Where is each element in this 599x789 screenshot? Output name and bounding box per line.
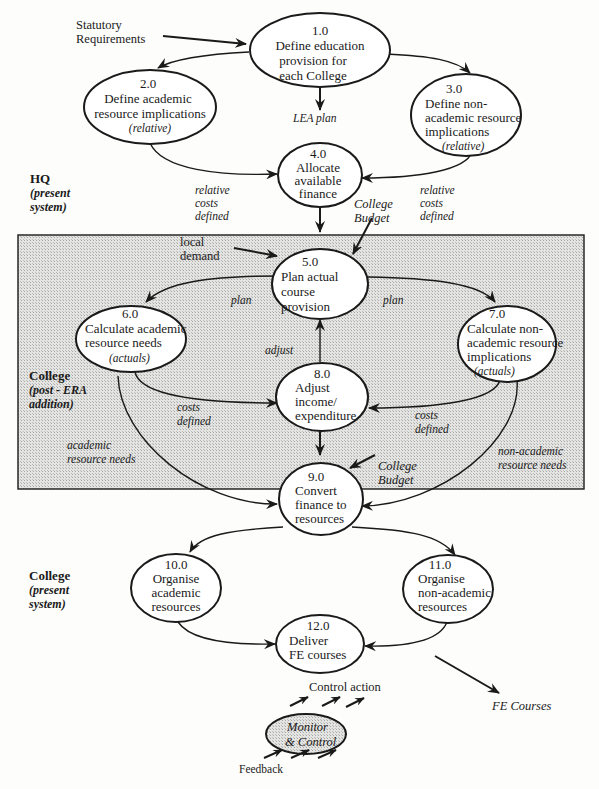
zone-college-post-sub: (post - ERA	[29, 383, 87, 397]
monitor-control-legend: Control action Monitor & Control Feedbac…	[239, 680, 382, 775]
costs-left-line: costs	[177, 401, 201, 413]
relative-costs-left-line: defined	[195, 210, 229, 223]
statutory-line: Statutory	[76, 18, 123, 32]
process-6[interactable]: 6.0 Calculate academic resource needs (a…	[76, 306, 187, 372]
relative-costs-right-line: relative	[420, 184, 455, 196]
monitor-line: & Control	[285, 735, 337, 749]
process-5-line: course	[281, 284, 315, 299]
local-demand-line: demand	[180, 249, 220, 263]
lea-plan-label: LEA plan	[292, 112, 337, 125]
academic-needs-line: academic	[67, 439, 111, 451]
control-action-label: Control action	[309, 680, 382, 694]
process-10-line: academic	[151, 585, 200, 600]
process-3-note: (relative)	[442, 140, 485, 153]
college-budget-bottom-line: College	[378, 459, 417, 473]
process-10-id: 10.0	[165, 557, 188, 572]
feedback-label: Feedback	[239, 763, 283, 775]
feedback-arrow	[264, 750, 282, 758]
zone-hq-sub: (present	[30, 186, 71, 200]
process-1-line: Define education	[275, 38, 365, 53]
process-1-id: 1.0	[312, 23, 328, 38]
process-10[interactable]: 10.0 Organise academic resources	[131, 554, 221, 622]
costs-right-line: costs	[415, 409, 439, 421]
college-budget-top-label: College Budget	[354, 197, 393, 225]
college-budget-top-line: College	[354, 197, 393, 211]
zone-college-present-title: College	[29, 568, 70, 583]
process-1-line: provision for	[279, 53, 347, 68]
process-6-line: resource needs	[85, 335, 162, 350]
process-4-id: 4.0	[310, 146, 326, 161]
process-3[interactable]: 3.0 Define non- academic resource implic…	[411, 74, 522, 156]
adjust-label: adjust	[265, 344, 294, 357]
zone-college-post-title: College	[29, 368, 70, 383]
relative-costs-left-line: relative	[195, 184, 230, 196]
process-4-line: finance	[299, 186, 337, 201]
zone-hq: HQ (present system)	[29, 171, 71, 214]
process-3-id: 3.0	[446, 81, 462, 96]
process-6-line: Calculate academic	[85, 321, 187, 336]
process-8[interactable]: 8.0 Adjust income/ expenditure	[276, 363, 368, 431]
flow-10-to-12	[178, 622, 275, 644]
monitor-line: Monitor	[286, 720, 328, 734]
control-action-arrow	[322, 697, 340, 706]
process-5-id: 5.0	[302, 254, 318, 269]
zone-hq-sub: system)	[29, 200, 67, 214]
process-10-line: resources	[151, 599, 200, 614]
process-12-id: 12.0	[307, 618, 330, 633]
process-2-note: (relative)	[129, 122, 172, 135]
process-10-line: Organise	[153, 571, 200, 586]
process-6-note: (actuals)	[109, 352, 150, 365]
local-demand-line: local	[180, 235, 205, 249]
process-7-line: implications	[467, 349, 531, 364]
process-12-line: Deliver	[289, 633, 329, 648]
process-8-line: Adjust	[295, 380, 330, 395]
flow-11-to-12	[365, 622, 447, 646]
non-academic-needs-line: resource needs	[498, 459, 567, 471]
process-5-line: provision	[281, 299, 331, 314]
process-1[interactable]: 1.0 Define education provision for each …	[250, 13, 390, 87]
process-5-line: Plan actual	[281, 269, 339, 284]
process-11-line: Organise	[418, 571, 465, 586]
costs-right-line: defined	[415, 423, 449, 436]
relative-costs-right-line: costs	[420, 197, 444, 209]
process-2-line: Define academic	[104, 91, 192, 106]
process-12-line: FE courses	[289, 647, 346, 662]
process-8-line: expenditure	[295, 408, 357, 423]
costs-left-line: defined	[177, 415, 211, 428]
non-academic-needs-line: non-academic	[498, 445, 563, 457]
relative-costs-right-label: relative costs defined	[420, 184, 455, 223]
process-3-line: Define non-	[425, 96, 487, 111]
college-budget-top-line: Budget	[354, 211, 390, 225]
process-4[interactable]: 4.0 Allocate available finance	[278, 143, 362, 207]
process-2[interactable]: 2.0 Define academic resource implication…	[84, 70, 216, 144]
zone-college-post-sub: addition)	[29, 397, 74, 411]
plan-right-label: plan	[382, 294, 404, 307]
process-7-line: academic resource	[467, 335, 564, 350]
process-9-line: resources	[295, 511, 344, 526]
process-9-line: Convert	[295, 483, 337, 498]
process-8-line: income/	[295, 394, 337, 409]
flow-9-to-11	[352, 527, 455, 555]
data-flow-diagram: 1.0 Define education provision for each …	[0, 0, 599, 789]
control-action-arrow	[290, 697, 308, 706]
control-action-arrow	[346, 698, 364, 707]
process-8-id: 8.0	[314, 366, 330, 381]
process-1-line: each College	[279, 68, 347, 83]
process-9[interactable]: 9.0 Convert finance to resources	[279, 463, 363, 535]
relative-costs-left-line: costs	[195, 197, 219, 209]
process-12[interactable]: 12.0 Deliver FE courses	[276, 615, 364, 673]
process-11-line: resources	[418, 599, 467, 614]
process-2-id: 2.0	[140, 76, 156, 91]
flow-12-to-fe-courses	[435, 656, 499, 693]
plan-left-label: plan	[230, 294, 252, 307]
flow-2-to-4	[150, 143, 277, 174]
process-11[interactable]: 11.0 Organise non-academic resources	[403, 555, 493, 623]
process-6-id: 6.0	[122, 306, 138, 321]
process-11-line: non-academic	[418, 585, 491, 600]
process-5[interactable]: 5.0 Plan actual course provision	[272, 249, 368, 319]
flow-9-to-10	[190, 527, 283, 552]
college-budget-bottom-label: College Budget	[378, 459, 417, 487]
zone-college-present-sub: (present	[29, 583, 70, 597]
control-action-arrows	[290, 697, 364, 707]
zone-college-present-sub: system)	[28, 597, 66, 611]
